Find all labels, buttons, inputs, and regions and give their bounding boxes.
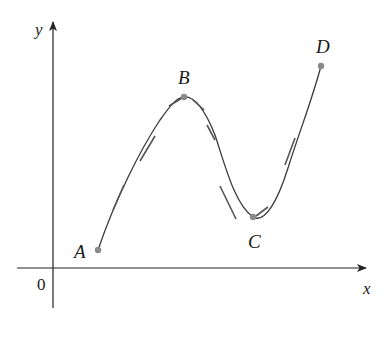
point-d-label: D [315, 36, 330, 57]
curve-diagram: y x 0 A B C D [0, 0, 383, 339]
x-axis-label: x [362, 279, 371, 298]
point-a-label: A [72, 241, 86, 262]
tangent-segments [113, 98, 295, 219]
segment [169, 98, 182, 106]
segment [192, 99, 204, 110]
point-b [181, 94, 187, 100]
points [95, 63, 324, 253]
point-c [250, 214, 256, 220]
origin-label: 0 [37, 275, 46, 294]
point-c-label: C [248, 231, 261, 252]
segment [220, 186, 236, 219]
segment [113, 185, 124, 210]
point-b-label: B [178, 67, 190, 88]
y-axis-label: y [33, 20, 43, 39]
axes [17, 22, 366, 308]
segment [256, 207, 268, 216]
point-a [95, 247, 101, 253]
point-d [318, 63, 324, 69]
